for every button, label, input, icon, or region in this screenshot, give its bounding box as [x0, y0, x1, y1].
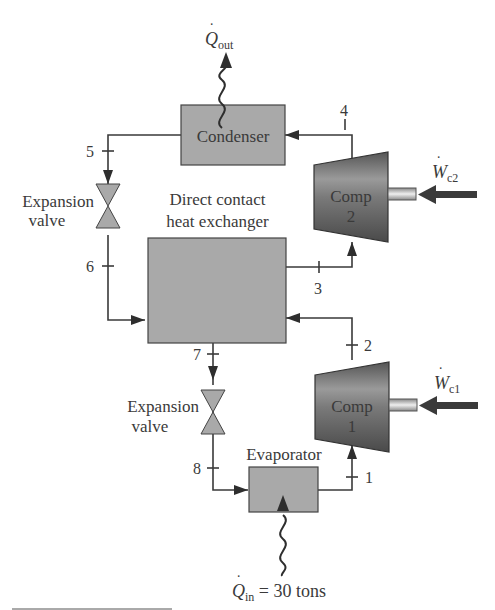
- expansion-valve-upper-label-2: valve: [0, 212, 94, 229]
- compressor-2-label-1: Comp: [314, 188, 388, 205]
- expansion-valve-lower-label-1: Expansion: [127, 398, 199, 415]
- state-1-label: 1: [365, 470, 373, 486]
- state-8-label: 8: [193, 461, 201, 477]
- state-6-label: 6: [86, 259, 94, 275]
- w-c1-symbol: W: [434, 374, 449, 392]
- heat-exchanger-label-1: Direct contact: [140, 191, 295, 208]
- state-2-label: 2: [364, 338, 372, 354]
- w-c1-label: Wc1: [434, 374, 460, 395]
- condenser-label: Condenser: [181, 128, 285, 145]
- q-out-symbol: Q: [205, 30, 218, 48]
- cycle-diagram: [0, 0, 495, 610]
- state-4-label: 4: [340, 103, 348, 119]
- q-out-arrowhead: [220, 52, 232, 68]
- expansion-valve-lower-label-2: valve: [110, 418, 190, 435]
- compressor-1-shaft: [389, 399, 417, 411]
- q-out-subscript: out: [218, 38, 233, 52]
- compressor-1-label-2: 1: [315, 418, 389, 435]
- w-c2-label: Wc2: [432, 163, 458, 184]
- expansion-valve-upper: [96, 184, 120, 228]
- w-c2-symbol: W: [432, 163, 447, 181]
- q-in-label: Qin = 30 tons: [232, 582, 326, 603]
- compressor-2-label-2: 2: [314, 208, 388, 225]
- heat-exchanger-box: [148, 238, 286, 343]
- q-out-label: Qout: [205, 30, 233, 51]
- state-5-label: 5: [86, 144, 94, 160]
- heat-exchanger-label-2: heat exchanger: [140, 213, 295, 230]
- w-c1-subscript: c1: [449, 382, 460, 396]
- q-in-symbol: Q: [232, 582, 245, 600]
- compressor-1-label-1: Comp: [315, 398, 389, 415]
- expansion-valve-lower: [201, 390, 225, 434]
- expansion-valve-upper-label-1: Expansion: [22, 193, 94, 210]
- q-in-value: = 30 tons: [259, 581, 326, 601]
- state-7-label: 7: [193, 347, 201, 363]
- state-3-label: 3: [314, 281, 322, 297]
- compressor-2-shaft: [388, 188, 416, 200]
- q-in-subscript: in: [245, 590, 254, 604]
- w-c2-subscript: c2: [447, 171, 458, 185]
- evaporator-label: Evaporator: [225, 446, 343, 463]
